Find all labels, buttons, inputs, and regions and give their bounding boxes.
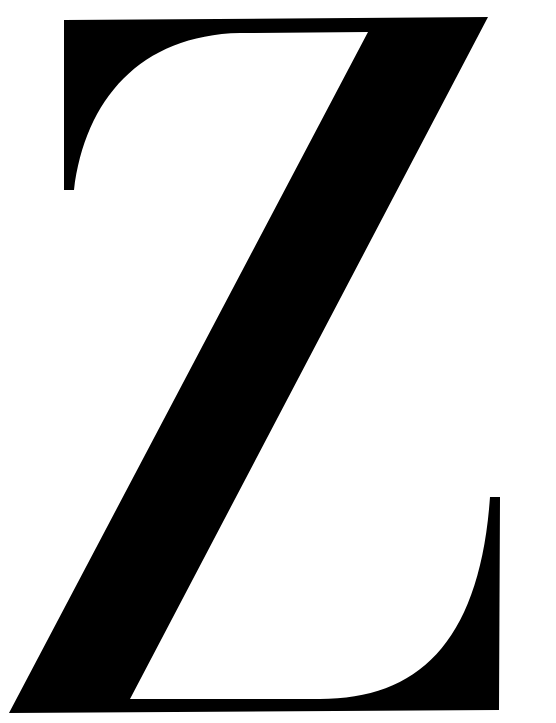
letter-z-glyph: [0, 0, 556, 723]
letter-z-shape: [9, 17, 500, 713]
glyph-canvas: Z: [0, 0, 556, 723]
